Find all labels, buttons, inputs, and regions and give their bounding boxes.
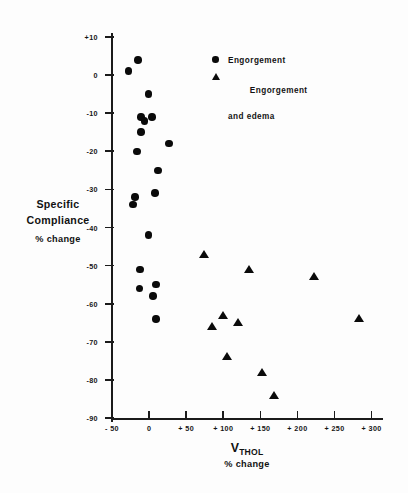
y-tick-label: +10: [58, 33, 98, 42]
x-tick-label: + 300: [352, 424, 392, 433]
data-point-triangle: [233, 318, 243, 326]
legend-label-engorgement-edema-line1: Engorgement: [250, 86, 308, 95]
data-point-circle: [154, 167, 162, 175]
data-point-triangle: [309, 272, 319, 280]
y-tick-label: -10: [58, 109, 98, 118]
x-tick-label: 0: [129, 424, 169, 433]
data-point-triangle: [199, 250, 209, 258]
y-tick-label: -70: [58, 338, 98, 347]
data-point-circle: [149, 292, 157, 300]
y-tick-label: -90: [58, 414, 98, 423]
data-point-triangle: [257, 368, 267, 376]
data-point-circle: [152, 315, 160, 323]
chart-legend: Engorgement Engorgement and edema: [212, 54, 308, 153]
data-point-circle: [152, 281, 160, 289]
legend-label-engorgement: Engorgement: [228, 54, 286, 67]
y-tick-label: -80: [58, 376, 98, 385]
data-point-circle: [133, 148, 141, 156]
data-point-triangle: [222, 352, 232, 360]
data-point-triangle: [354, 314, 364, 322]
y-axis-title: Specific Compliance % change: [10, 196, 106, 247]
y-tick-label: -50: [58, 262, 98, 271]
circle-marker-icon: [212, 54, 228, 63]
data-point-circle: [145, 231, 153, 239]
data-point-circle: [151, 189, 159, 197]
legend-item-engorgement: Engorgement: [212, 54, 308, 67]
legend-item-engorgement-edema: Engorgement and edema: [212, 71, 308, 149]
y-tick-label: -30: [58, 185, 98, 194]
data-point-triangle: [207, 322, 217, 330]
legend-label-engorgement-edema-line2: and edema: [228, 110, 308, 123]
y-axis-title-units: % change: [10, 231, 106, 247]
data-point-circle: [137, 128, 145, 136]
data-point-circle: [134, 56, 142, 64]
y-tick-label: -20: [58, 147, 98, 156]
x-tick-label: + 100: [203, 424, 243, 433]
data-point-circle: [148, 113, 156, 121]
y-tick-label: 0: [58, 71, 98, 80]
data-point-circle: [136, 266, 144, 274]
data-point-triangle: [218, 311, 228, 319]
x-axis-title-sub2: L: [258, 447, 263, 457]
x-tick-label: + 250: [315, 424, 355, 433]
data-point-circle: [129, 201, 137, 209]
y-axis-title-line2: Compliance: [26, 214, 89, 226]
triangle-marker-icon: [212, 71, 228, 80]
data-point-circle: [145, 90, 153, 98]
y-tick-label: -60: [58, 300, 98, 309]
x-axis-title: VTHOL % change: [112, 438, 382, 469]
x-axis-title-sub1: THO: [239, 447, 258, 457]
x-tick-label: - 50: [92, 424, 132, 433]
data-point-circle: [136, 285, 144, 293]
data-point-circle: [125, 67, 133, 75]
data-point-circle: [131, 193, 139, 201]
x-axis-title-main: V: [231, 441, 239, 455]
data-point-triangle: [269, 391, 279, 399]
x-tick-label: + 150: [240, 424, 280, 433]
x-tick-label: + 50: [166, 424, 206, 433]
y-axis-title-line1: Specific: [36, 198, 79, 210]
data-point-circle: [165, 140, 173, 148]
x-tick-label: + 200: [277, 424, 317, 433]
x-axis-line: [111, 418, 383, 420]
data-point-triangle: [244, 265, 254, 273]
scatter-chart-figure: +100-10-20-30-40-50-60-70-80-90 - 500+ 5…: [0, 0, 408, 493]
x-axis-title-units: % change: [112, 459, 382, 469]
